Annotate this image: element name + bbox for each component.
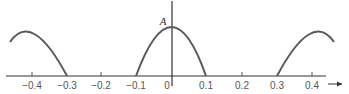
tick-label: −0.3 [57, 80, 77, 91]
tick-label: −0.2 [91, 80, 111, 91]
tick-label: 0 [164, 80, 170, 91]
arc-center [136, 27, 206, 76]
x-axis-arrow-icon [328, 82, 342, 87]
pulse-train-chart: −0.4 −0.3 −0.2 −0.1 0 0.1 0.2 0.3 0.4 A [0, 0, 349, 94]
peak-label: A [159, 15, 167, 27]
tick-label: −0.4 [22, 80, 42, 91]
tick-label: 0.1 [199, 80, 213, 91]
tick-label: −0.1 [126, 80, 146, 91]
x-tick-labels: −0.4 −0.3 −0.2 −0.1 0 0.1 0.2 0.3 0.4 [22, 80, 319, 91]
tick-label: 0.2 [235, 80, 249, 91]
tick-label: 0.4 [305, 80, 319, 91]
arc-right [277, 32, 334, 76]
arc-left [10, 32, 67, 76]
tick-label: 0.3 [270, 80, 284, 91]
